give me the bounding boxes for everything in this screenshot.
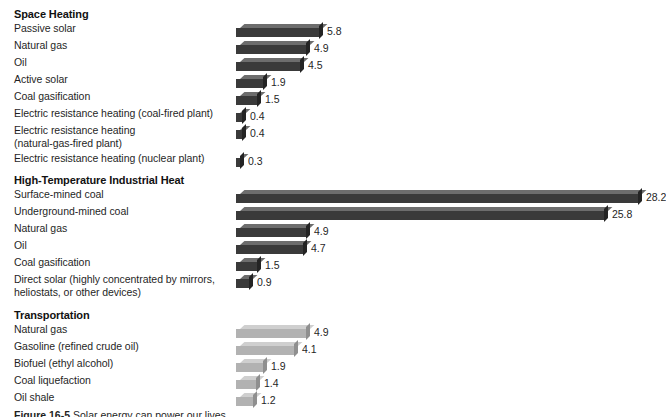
- bar: [236, 359, 263, 374]
- figure-caption: Figure 16-5 Solar energy can power our l…: [14, 409, 226, 417]
- category-label: Oil shale: [14, 391, 54, 404]
- bar-right-face: [249, 273, 253, 290]
- bar-value-label: 1.2: [261, 394, 275, 406]
- bar-value-label: 0.9: [257, 276, 271, 288]
- category-label: Coal gasification: [14, 256, 90, 269]
- bar-right-face: [242, 124, 246, 141]
- bar-right-face: [263, 357, 267, 374]
- bar-value-label: 0.3: [248, 155, 262, 167]
- bar-value-label: 4.9: [314, 326, 328, 338]
- chart-row: Surface-mined coal28.2: [0, 188, 658, 205]
- section-title: Space Heating: [14, 8, 89, 20]
- section-title: Transportation: [14, 309, 90, 321]
- bar-right-face: [253, 391, 257, 408]
- bar-value-label: 0.4: [250, 127, 264, 139]
- bar-front-face: [236, 380, 256, 389]
- section-title: High-Temperature Industrial Heat: [14, 174, 184, 186]
- bar: [236, 154, 240, 169]
- category-label: Electric resistance heating (natural-gas…: [14, 124, 135, 149]
- bar-front-face: [236, 363, 263, 372]
- bar: [236, 224, 306, 239]
- bar-front-face: [236, 397, 253, 406]
- bar-front-face: [236, 228, 306, 237]
- bar-right-face: [263, 73, 267, 90]
- bar: [236, 24, 319, 39]
- bar: [236, 126, 242, 141]
- chart-row: Electric resistance heating (nuclear pla…: [0, 152, 658, 169]
- bar: [236, 58, 300, 73]
- bar-front-face: [236, 262, 257, 271]
- bar-value-label: 1.5: [265, 93, 279, 105]
- bar-right-face: [300, 56, 304, 73]
- category-label: Oil: [14, 239, 27, 252]
- bar-value-label: 1.5: [265, 259, 279, 271]
- bar-right-face: [242, 107, 246, 124]
- chart-row: Direct solar (highly concentrated by mir…: [0, 273, 658, 290]
- bar-right-face: [257, 90, 261, 107]
- bar-front-face: [236, 79, 263, 88]
- bar-value-label: 1.9: [271, 76, 285, 88]
- bar-value-label: 4.7: [311, 242, 325, 254]
- chart-row: Coal liquefaction1.4: [0, 374, 658, 391]
- bar-right-face: [306, 39, 310, 56]
- category-label: Gasoline (refined crude oil): [14, 340, 139, 353]
- bar-value-label: 4.9: [314, 225, 328, 237]
- bar-front-face: [236, 211, 604, 220]
- category-label: Natural gas: [14, 39, 67, 52]
- chart-row: Natural gas4.9: [0, 222, 658, 239]
- bar-right-face: [257, 256, 261, 273]
- category-label: Natural gas: [14, 222, 67, 235]
- bar-front-face: [236, 45, 306, 54]
- chart-row: Gasoline (refined crude oil)4.1: [0, 340, 658, 357]
- bar-right-face: [319, 22, 323, 39]
- bar-front-face: [236, 279, 249, 288]
- bar-right-face: [303, 239, 307, 256]
- figure-caption-prefix: Figure 16-5: [14, 409, 70, 417]
- bar-value-label: 28.2: [646, 191, 666, 203]
- chart-row: Electric resistance heating (coal-fired …: [0, 107, 658, 124]
- category-label: Underground-mined coal: [14, 205, 128, 218]
- bar-right-face: [306, 222, 310, 239]
- chart-row: Underground-mined coal25.8: [0, 205, 658, 222]
- chart-row: Passive solar5.8: [0, 22, 658, 39]
- bar: [236, 41, 306, 56]
- bar: [236, 109, 242, 124]
- bar-value-label: 25.8: [612, 208, 632, 220]
- bar: [236, 241, 303, 256]
- bar-front-face: [236, 194, 638, 203]
- chart-row: Electric resistance heating (natural-gas…: [0, 124, 658, 141]
- category-label: Electric resistance heating (nuclear pla…: [14, 152, 204, 165]
- bar: [236, 376, 256, 391]
- bar: [236, 393, 253, 408]
- bar-value-label: 4.1: [302, 343, 316, 355]
- category-label: Natural gas: [14, 323, 67, 336]
- bar-front-face: [236, 28, 319, 37]
- bar-right-face: [294, 340, 298, 357]
- bar-right-face: [604, 205, 608, 222]
- category-label: Electric resistance heating (coal-fired …: [14, 107, 213, 120]
- bar-value-label: 1.9: [271, 360, 285, 372]
- bar-value-label: 5.8: [327, 25, 341, 37]
- bar: [236, 325, 306, 340]
- chart-row: Natural gas4.9: [0, 323, 658, 340]
- bar-right-face: [256, 374, 260, 391]
- chart-row: Coal gasification1.5: [0, 256, 658, 273]
- category-label: Coal gasification: [14, 90, 90, 103]
- bar-value-label: 4.9: [314, 42, 328, 54]
- category-label: Direct solar (highly concentrated by mir…: [14, 273, 215, 298]
- bar-right-face: [638, 188, 642, 205]
- bar-value-label: 0.4: [250, 110, 264, 122]
- bar: [236, 258, 257, 273]
- bar-front-face: [236, 329, 306, 338]
- chart-row: Coal gasification1.5: [0, 90, 658, 107]
- bar: [236, 190, 638, 205]
- chart-row: Active solar1.9: [0, 73, 658, 90]
- bar: [236, 275, 249, 290]
- chart-row: Oil4.7: [0, 239, 658, 256]
- category-label: Oil: [14, 56, 27, 69]
- bar-front-face: [236, 96, 257, 105]
- category-label: Surface-mined coal: [14, 188, 104, 201]
- bar-front-face: [236, 346, 294, 355]
- bar-front-face: [236, 62, 300, 71]
- category-label: Passive solar: [14, 22, 76, 35]
